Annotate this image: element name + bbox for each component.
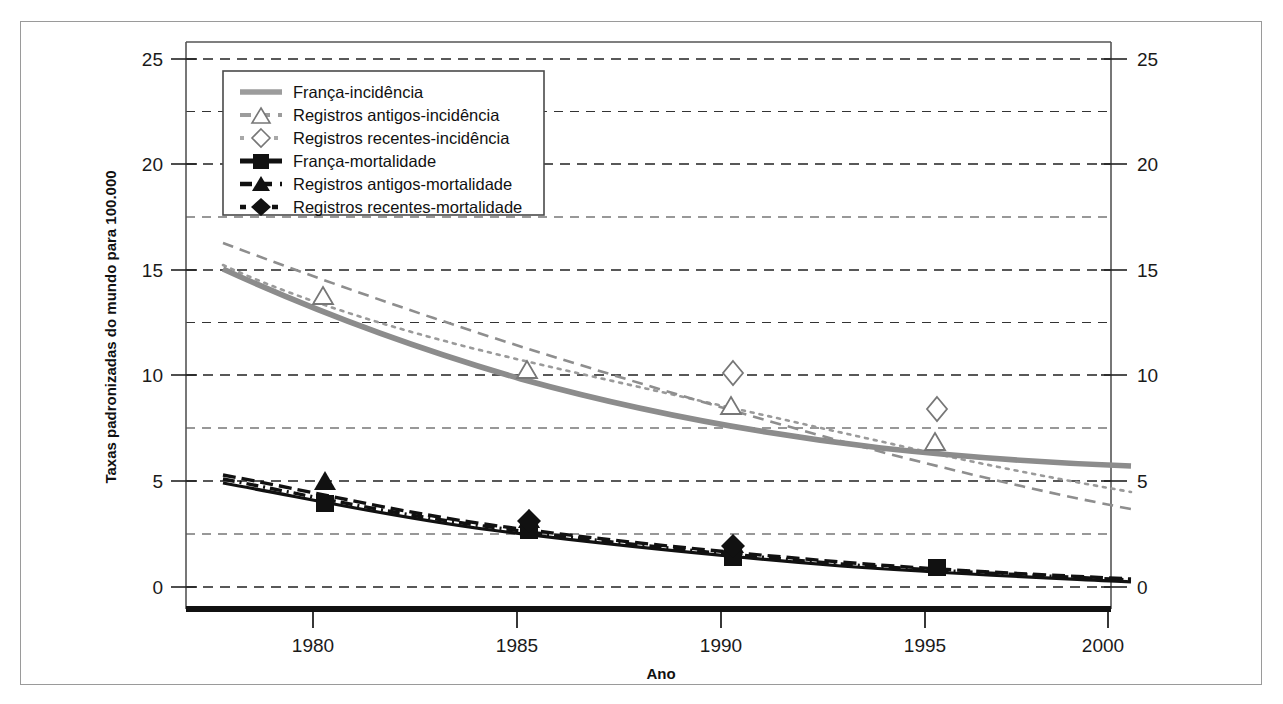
legend[interactable]: França-incidência Registros antigos-inci… (223, 71, 544, 216)
marker-diamond-open (723, 361, 743, 385)
y-right-tick-label-5: 5 (1137, 471, 1148, 492)
marker-triangle-open (313, 287, 333, 304)
marker-square-filled (316, 495, 334, 512)
x-tick-label-2000: 2000 (1082, 635, 1124, 656)
y-right-tick-label-20: 20 (1137, 154, 1158, 175)
marker-square-filled (928, 559, 946, 576)
x-tick-label-1995: 1995 (904, 635, 946, 656)
y-right-tick-label-10: 10 (1137, 365, 1158, 386)
markers-registros-antigos-incidencia (313, 287, 945, 450)
y-tick-label-15: 15 (142, 260, 163, 281)
series-line-registros-antigos-incidencia (223, 243, 1131, 509)
legend-label: França-incidência (293, 83, 424, 101)
chart-canvas: 25 20 15 10 5 0 25 20 15 10 5 0 (21, 22, 1261, 684)
marker-triangle-filled (314, 471, 336, 490)
x-axis-title: Ano (646, 665, 675, 682)
legend-label: Registros recentes-mortalidade (293, 198, 522, 216)
marker-diamond-open (927, 397, 947, 421)
legend-label: Registros recentes-incidência (293, 129, 510, 147)
y-axis-right-labels: 25 20 15 10 5 0 (1137, 49, 1158, 598)
y-right-tick-label-25: 25 (1137, 49, 1158, 70)
x-axis-ticks (313, 612, 1108, 628)
y-tick-label-5: 5 (152, 471, 163, 492)
y-right-tick-label-0: 0 (1137, 577, 1148, 598)
y-tick-label-10: 10 (142, 365, 163, 386)
x-tick-label-1980: 1980 (292, 635, 334, 656)
x-tick-label-1985: 1985 (496, 635, 538, 656)
y-tick-label-20: 20 (142, 154, 163, 175)
series-line-registros-antigos-mortalidade (223, 475, 1131, 579)
series-line-franca-incidencia (223, 269, 1131, 466)
y-axis-left-labels: 25 20 15 10 5 0 (142, 49, 163, 598)
series-line-franca-mortalidade (223, 483, 1131, 582)
y-right-tick-label-15: 15 (1137, 260, 1158, 281)
legend-label: Registros antigos-mortalidade (293, 175, 512, 193)
legend-label: França-mortalidade (293, 152, 436, 170)
y-tick-label-25: 25 (142, 49, 163, 70)
y-tick-label-0: 0 (152, 577, 163, 598)
legend-marker-square-filled (253, 154, 269, 169)
y-axis-title: Taxas padronizadas do mundo para 100.000 (102, 170, 119, 483)
marker-triangle-open (925, 433, 945, 450)
markers-registros-recentes-incidencia (723, 361, 947, 421)
series-line-registros-recentes-mortalidade (223, 479, 1131, 580)
figure-frame: 25 20 15 10 5 0 25 20 15 10 5 0 (20, 21, 1262, 685)
x-axis-labels: 1980 1985 1990 1995 2000 (292, 635, 1124, 656)
x-tick-label-1990: 1990 (700, 635, 742, 656)
legend-label: Registros antigos-incidência (293, 106, 500, 124)
